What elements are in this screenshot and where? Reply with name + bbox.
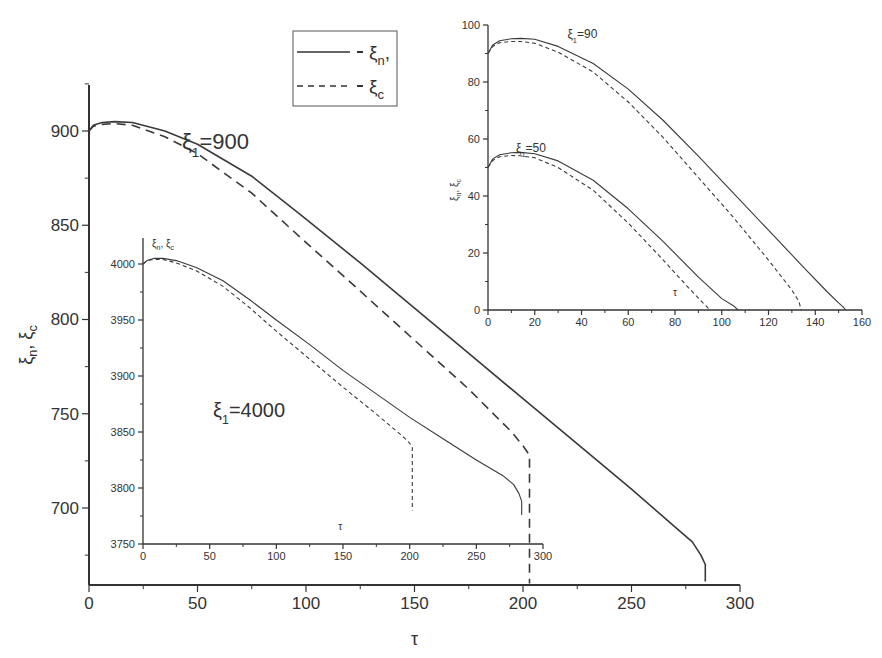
series-line-xi-c [143, 260, 412, 511]
x-tick-label: 140 [806, 316, 824, 328]
x-tick-label: 0 [140, 550, 146, 562]
y-tick-label: 20 [468, 247, 480, 259]
y-tick-label: 700 [51, 499, 79, 518]
y-tick-label: 800 [51, 310, 79, 329]
chart-inset_4000: 0501001502002503003750380038503900395040… [111, 238, 553, 562]
series-line-xi-n [488, 152, 738, 310]
y-tick-label: 3900 [111, 370, 135, 382]
series-line-xi-c [488, 42, 801, 311]
x-tick-label: 100 [713, 316, 731, 328]
x-tick-label: 300 [534, 550, 552, 562]
series-line-xi-n [89, 122, 705, 582]
y-tick-label: 750 [51, 405, 79, 424]
x-tick-label: 160 [853, 316, 871, 328]
x-tick-label: 120 [759, 316, 777, 328]
y-tick-label: 100 [462, 19, 480, 31]
chart-figure: 050100150200250300700750800850900τξn, ξc… [0, 0, 882, 658]
x-tick-label: 150 [400, 594, 428, 613]
legend: ξn,ξc [293, 31, 397, 106]
chart-canvas: 050100150200250300700750800850900τξn, ξc… [0, 0, 882, 658]
x-axis-label: τ [338, 521, 342, 532]
y-axis-label: ξn, ξc [449, 179, 462, 201]
y-tick-label: 3800 [111, 482, 135, 494]
y-axis-label: ξn, ξc [16, 325, 40, 364]
y-tick-label: 80 [468, 76, 480, 88]
chart-inset_50_90: 020406080100120140160020406080100τξn, ξc… [449, 19, 871, 328]
y-tick-label: 3950 [111, 314, 135, 326]
annotation-label: ξ1=4000 [213, 399, 285, 427]
x-tick-label: 250 [467, 550, 485, 562]
y-tick-label: 40 [468, 190, 480, 202]
x-tick-label: 150 [334, 550, 352, 562]
series-line-xi-c [89, 124, 530, 584]
y-tick-label: 850 [51, 216, 79, 235]
x-tick-label: 20 [529, 316, 541, 328]
x-tick-label: 0 [84, 594, 93, 613]
y-tick-label: 3750 [111, 538, 135, 550]
x-tick-label: 0 [485, 316, 491, 328]
x-tick-label: 80 [669, 316, 681, 328]
y-axis-label: ξn, ξc [152, 238, 174, 251]
chart-main: 050100150200250300700750800850900τξn, ξc… [16, 31, 754, 649]
x-tick-label: 200 [509, 594, 537, 613]
series-line-xi-n [488, 38, 846, 310]
x-axis-label: τ [673, 287, 677, 298]
x-tick-label: 60 [622, 316, 634, 328]
x-tick-label: 100 [292, 594, 320, 613]
x-tick-label: 250 [617, 594, 645, 613]
y-tick-label: 60 [468, 133, 480, 145]
y-tick-label: 0 [474, 304, 480, 316]
x-tick-label: 100 [267, 550, 285, 562]
y-tick-label: 3850 [111, 426, 135, 438]
y-tick-label: 4000 [111, 258, 135, 270]
x-tick-label: 200 [400, 550, 418, 562]
x-axis-label: τ [411, 629, 418, 649]
x-tick-label: 40 [575, 316, 587, 328]
x-tick-label: 300 [726, 594, 754, 613]
x-tick-label: 50 [188, 594, 207, 613]
y-tick-label: 900 [51, 122, 79, 141]
x-tick-label: 50 [204, 550, 216, 562]
annotation-label: ξ1=90 [567, 27, 597, 44]
